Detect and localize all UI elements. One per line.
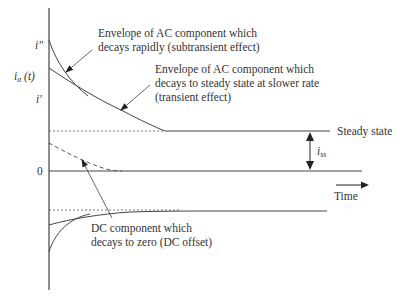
transient-annotation-line1: Envelope of AC component which: [155, 63, 314, 76]
subtransient-annotation-line2: decays rapidly (subtransient effect): [98, 41, 260, 54]
steady-state-label: Steady state: [337, 125, 392, 138]
dc-annotation-line2: decays to zero (DC offset): [91, 236, 212, 249]
time-label: Time: [334, 190, 358, 202]
time-arrow-head-icon: [361, 182, 369, 189]
dc-annotation-line1: DC component which: [91, 222, 192, 235]
label-i-transient: i': [36, 93, 42, 105]
dc-arrow: [82, 160, 112, 218]
label-zero: 0: [37, 165, 43, 177]
iss-arrow-top-icon: [306, 132, 314, 141]
label-ia-t: ia (t): [14, 70, 35, 84]
subtransient-annotation-line1: Envelope of AC component which: [98, 27, 257, 40]
transient-annotation-line2: decays to steady state at slower rate: [155, 77, 319, 90]
transient-arrow: [121, 85, 150, 110]
upper-subtransient-envelope: [49, 40, 88, 96]
label-i-subtransient: i": [35, 39, 43, 51]
iss-arrow-bottom-icon: [306, 161, 314, 170]
subtransient-arrow: [66, 50, 92, 72]
transient-annotation-line3: (transient effect): [155, 91, 231, 104]
iss-label: iss: [317, 145, 326, 159]
short-circuit-current-diagram: i" ia (t) i' 0 Envelope of AC component …: [0, 0, 407, 305]
